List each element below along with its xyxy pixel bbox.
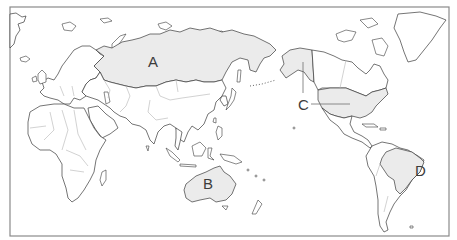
hawaii xyxy=(293,127,295,129)
world-map: A B C D xyxy=(0,0,457,240)
pacific-island xyxy=(247,169,249,171)
pacific-island xyxy=(263,179,265,181)
hispaniola xyxy=(380,128,386,130)
falkland-islands xyxy=(410,226,413,228)
pacific-island xyxy=(255,175,257,177)
region-label-a: A xyxy=(148,54,158,69)
map-canvas xyxy=(0,0,457,240)
region-label-c: C xyxy=(298,97,309,112)
sakhalin xyxy=(237,70,241,82)
region-label-b: B xyxy=(203,176,213,191)
region-label-d: D xyxy=(415,163,426,178)
